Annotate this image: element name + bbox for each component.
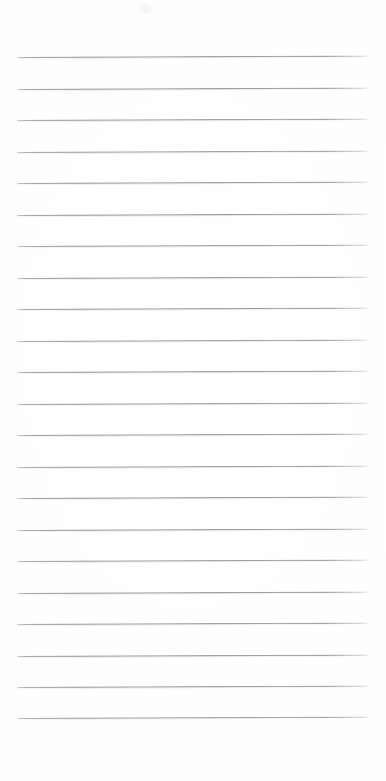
writing-area[interactable]	[17, 57, 369, 718]
ruled-paper-page	[0, 0, 386, 781]
